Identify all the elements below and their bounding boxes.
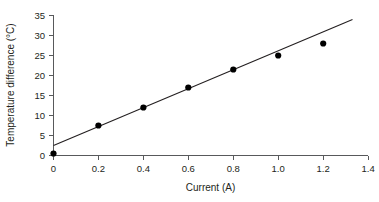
- data-point-group: [50, 40, 326, 156]
- data-point: [50, 150, 56, 156]
- x-tick-label-4: 0.8: [227, 163, 240, 174]
- chart-canvas: 0 5 10 15 20 25 30 35 0 0.2 0.4: [0, 0, 379, 202]
- data-point: [320, 40, 326, 46]
- y-axis-ticks: 0 5 10 15 20 25 30 35: [34, 10, 53, 161]
- y-tick-label-5: 25: [34, 50, 45, 61]
- x-tick-label-1: 0.2: [92, 163, 105, 174]
- y-tick-label-6: 30: [34, 30, 45, 41]
- x-tick-label-6: 1.2: [317, 163, 330, 174]
- scatter-chart-figure: 0 5 10 15 20 25 30 35 0 0.2 0.4: [0, 0, 379, 202]
- y-axis-title: Temperature difference (°C): [5, 23, 16, 146]
- data-point: [185, 84, 191, 90]
- x-tick-label-7: 1.4: [361, 163, 374, 174]
- x-tick-label-0: 0: [51, 163, 56, 174]
- data-point: [230, 66, 236, 72]
- x-axis-title: Current (A): [186, 182, 235, 193]
- y-tick-label-4: 20: [34, 70, 45, 81]
- x-axis-ticks: 0 0.2 0.4 0.6 0.8 1.0 1.2 1.4: [51, 156, 375, 175]
- x-tick-label-3: 0.6: [182, 163, 195, 174]
- y-tick-label-3: 15: [34, 90, 45, 101]
- y-tick-label-0: 0: [40, 150, 45, 161]
- y-tick-label-7: 35: [34, 10, 45, 21]
- data-point: [275, 52, 281, 58]
- data-point: [95, 122, 101, 128]
- data-point: [140, 104, 146, 110]
- x-tick-label-2: 0.4: [137, 163, 150, 174]
- x-tick-label-5: 1.0: [272, 163, 285, 174]
- y-tick-label-1: 5: [40, 130, 45, 141]
- y-tick-label-2: 10: [34, 110, 45, 121]
